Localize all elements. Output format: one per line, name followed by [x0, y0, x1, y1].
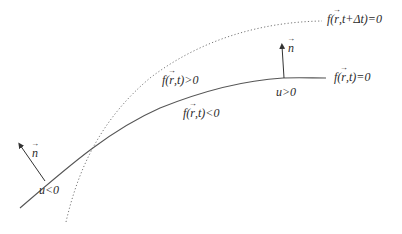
- vector-n: n: [32, 147, 38, 159]
- vector-r: r: [169, 74, 174, 86]
- speed-negative-label: u<0: [39, 184, 59, 196]
- positive-region-label: f(r,t)>0: [162, 74, 198, 86]
- normal-label-right: n: [288, 42, 294, 54]
- current-front-label: f(r,t)=0: [334, 71, 370, 83]
- vector-r: r: [334, 13, 339, 25]
- future-front-label: f(r,t+Δt)=0: [327, 13, 382, 25]
- label-part: f(: [162, 73, 169, 87]
- label-part: ,t)=0: [346, 70, 370, 84]
- negative-region-label: f(r,t)<0: [183, 107, 219, 119]
- label-part: ,t+Δt)=0: [339, 12, 382, 26]
- vector-r: r: [341, 71, 346, 83]
- label-part: ,t)>0: [174, 73, 198, 87]
- normal-label-left: n: [32, 147, 38, 159]
- label-part: f(: [327, 12, 334, 26]
- normal-arrow-right: [282, 46, 284, 78]
- label-part: f(: [334, 70, 341, 84]
- vector-n: n: [288, 42, 294, 54]
- level-set-diagram: f(r,t+Δt)=0 n f(r,t)=0 f(r,t)>0 u>0 f(r,…: [0, 0, 402, 234]
- label-part: f(: [183, 106, 190, 120]
- label-part: ,t)<0: [195, 106, 219, 120]
- future-front-curve: [66, 21, 322, 222]
- vector-r: r: [190, 107, 195, 119]
- speed-positive-label: u>0: [276, 86, 296, 98]
